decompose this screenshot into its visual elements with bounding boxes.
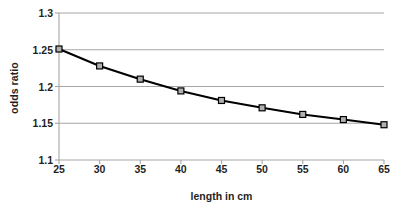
y-axis-tick-label: 1.1 [38, 154, 53, 166]
data-point-marker [137, 76, 143, 82]
x-axis-tick-label: 65 [378, 163, 390, 175]
x-axis-tick-labels: 253035404550556065 [59, 163, 384, 179]
y-axis-title: odds ratio [0, 0, 28, 175]
x-axis-tick-label: 25 [53, 163, 65, 175]
y-axis-tick-label: 1.3 [38, 7, 53, 19]
x-axis-tick-label: 30 [94, 163, 106, 175]
x-axis-tick-label: 50 [256, 163, 268, 175]
data-point-marker [56, 46, 62, 52]
plot-area [59, 13, 384, 160]
y-axis-title-label: odds ratio [8, 62, 20, 114]
x-axis-tick-label: 60 [338, 163, 350, 175]
data-point-marker [178, 88, 184, 94]
data-point-marker [381, 122, 387, 128]
x-axis-tick-label: 40 [175, 163, 187, 175]
data-point-marker [219, 97, 225, 103]
gridlines [59, 13, 384, 160]
x-axis-tick-label: 35 [134, 163, 146, 175]
data-point-marker [340, 117, 346, 123]
chart-container: odds ratio 1.11.151.21.251.3 25303540455… [0, 0, 395, 220]
plot-svg [59, 13, 384, 160]
x-axis-tick-label: 45 [216, 163, 228, 175]
y-axis-tick-labels: 1.11.151.21.251.3 [26, 7, 56, 160]
y-axis-tick-label: 1.25 [33, 44, 53, 56]
x-axis-title: length in cm [59, 190, 384, 202]
data-point-marker [97, 63, 103, 69]
data-point-marker [300, 111, 306, 117]
y-axis-tick-label: 1.15 [33, 117, 53, 129]
data-point-marker [259, 105, 265, 111]
x-axis-tick-label: 55 [297, 163, 309, 175]
y-axis-tick-label: 1.2 [38, 81, 53, 93]
